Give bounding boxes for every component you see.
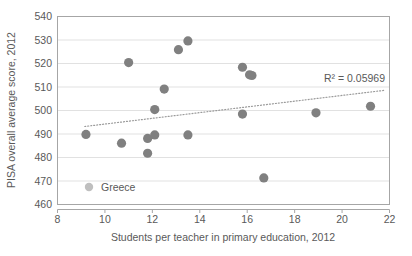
x-axis-tick-label: 16 [241, 213, 253, 225]
data-point [124, 58, 133, 67]
data-point [183, 130, 192, 139]
data-point [150, 130, 159, 139]
y-axis-tick-label: 530 [34, 34, 52, 46]
x-axis-title: Students per teacher in primary educatio… [111, 231, 335, 243]
y-axis-tick-label: 500 [34, 104, 52, 116]
legend-label: Greece [101, 181, 136, 193]
chart-canvas: 460470480490500510520530540 810121416182… [0, 0, 412, 256]
x-axis-tick-label: 22 [384, 213, 396, 225]
x-axis-tick-label: 14 [194, 213, 206, 225]
legend-marker-icon [85, 183, 93, 191]
data-point [117, 139, 126, 148]
y-axis-tick-label: 520 [34, 57, 52, 69]
data-point [81, 130, 90, 139]
y-axis-tick-label: 470 [34, 175, 52, 187]
x-axis-tick-label: 10 [99, 213, 111, 225]
legend: Greece [85, 181, 136, 193]
trendline [85, 90, 385, 126]
scatter-chart: 460470480490500510520530540 810121416182… [0, 0, 412, 256]
y-axis-tick-label: 540 [34, 10, 52, 22]
x-axis-tick-label: 12 [147, 213, 159, 225]
data-point [150, 105, 159, 114]
gridlines [58, 17, 390, 182]
data-point [174, 45, 183, 54]
data-point [311, 108, 320, 117]
y-axis-tick-label: 490 [34, 128, 52, 140]
y-axis-tick-label: 480 [34, 151, 52, 163]
data-point [238, 109, 247, 118]
y-axis-title: PISA overall average score, 2012 [5, 32, 17, 188]
y-axis-tick-label: 510 [34, 81, 52, 93]
r-squared-annotation: R² = 0.05969 [324, 72, 385, 84]
x-axis-tick-labels: 810121416182022 [55, 213, 396, 225]
data-point [247, 71, 256, 80]
y-axis-tick-labels: 460470480490500510520530540 [34, 10, 52, 210]
data-point [183, 36, 192, 45]
data-point [160, 85, 169, 94]
x-axis-tick-label: 20 [336, 213, 348, 225]
x-axis-tick-label: 18 [289, 213, 301, 225]
data-point [143, 149, 152, 158]
data-point [366, 102, 375, 111]
x-axis-tick-label: 8 [55, 213, 61, 225]
data-point [259, 173, 268, 182]
data-point [238, 63, 247, 72]
y-axis-tick-label: 460 [34, 198, 52, 210]
